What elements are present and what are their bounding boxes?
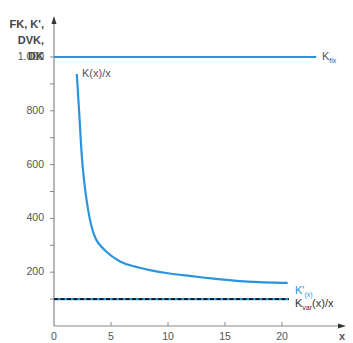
kfix-label-sub: fix [329, 57, 336, 64]
legend-label-k-prime: K'(x) [295, 284, 313, 298]
legend-label-kfix: Kfix [322, 50, 336, 64]
y-tick-label: 200 [0, 265, 44, 277]
kvar-label-tail: (x)/x [312, 297, 333, 309]
axes [50, 16, 346, 329]
x-axis-arrow-icon [338, 324, 346, 329]
y-tick-label: 1.000 [0, 50, 44, 62]
legend-label-kvar-over-x: Kvar(x)/x [295, 297, 333, 311]
y-tick-label: 600 [0, 158, 44, 170]
x-tick-label: 0 [44, 330, 64, 342]
y-axis-arrow-icon [52, 16, 57, 24]
y-axis-title-line-1: FK, K', [6, 16, 44, 32]
x-tick-label: 5 [101, 330, 121, 342]
x-tick-label: 10 [158, 330, 178, 342]
k-over-x-label-text: K(x)/x [82, 67, 111, 79]
series-group [54, 57, 316, 299]
legend-label-k-over-x: K(x)/x [82, 67, 111, 79]
x-tick-label: 15 [215, 330, 235, 342]
y-tick-label: 400 [0, 211, 44, 223]
x-axis-title: x [339, 330, 345, 342]
kvar-label-sub: var [302, 304, 312, 311]
series-line-k-x-x [77, 74, 288, 283]
y-tick-label: 800 [0, 104, 44, 116]
x-tick-label: 20 [272, 330, 292, 342]
